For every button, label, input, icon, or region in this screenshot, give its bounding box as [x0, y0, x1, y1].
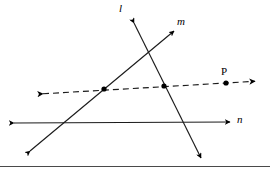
line-m-label: m	[177, 16, 185, 27]
intersection-l-dashed-dot	[161, 83, 166, 88]
line-n	[14, 122, 230, 123]
point-p-dot	[223, 80, 228, 85]
line-m	[30, 31, 174, 151]
line-l-label: l	[119, 3, 122, 14]
line-n-label: n	[237, 114, 243, 125]
point-p-label: P	[221, 66, 227, 77]
bottom-divider	[0, 166, 270, 167]
dashed-transversal	[43, 81, 255, 94]
geometry-figure: l m n P	[0, 0, 270, 171]
intersection-m-dashed-dot	[101, 86, 106, 91]
line-l	[134, 23, 201, 158]
figure-canvas	[0, 0, 270, 171]
